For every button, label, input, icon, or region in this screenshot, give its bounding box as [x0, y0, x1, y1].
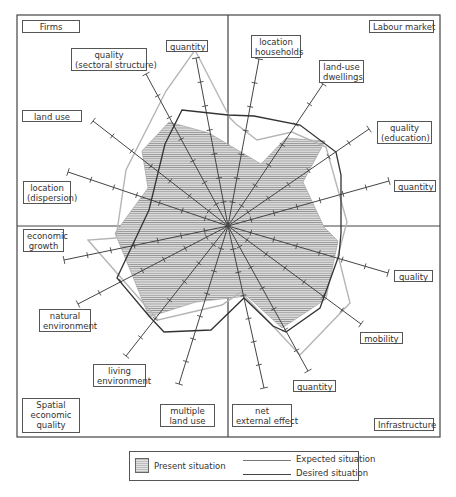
axis-label-3: location (dispersion) [23, 181, 71, 204]
quadrant-label-labour-market: Labour market [369, 20, 434, 33]
legend-desired-label: Desired situation [296, 468, 368, 478]
axis-label-13: living environment [93, 364, 146, 387]
axis-label-1: quality (sectoral structure) [71, 48, 147, 71]
present-situation-swatch [135, 458, 149, 473]
legend: Present situation Expected situation Des… [129, 451, 359, 481]
axis-label-8: quality [394, 270, 433, 282]
axis-label-15: economic growth [23, 229, 64, 252]
expected-situation-line-sample [243, 460, 291, 461]
axis-label-6: quality (education) [377, 121, 432, 144]
desired-situation-line-sample [243, 474, 291, 475]
axis-label-5: land-use dwellings [319, 60, 364, 83]
legend-present-label: Present situation [154, 461, 226, 471]
quadrant-label-infrastructure: Infrastructure [374, 418, 434, 431]
legend-expected-label: Expected situation [296, 454, 375, 464]
quadrant-label-spatial-economic-quality: Spatial economic quality [22, 398, 80, 433]
quadrant-label-firms: Firms [22, 20, 80, 33]
axis-label-10: quantity [293, 380, 336, 392]
axis-label-7: quantity [394, 180, 436, 192]
axis-label-11: net external effect [232, 404, 292, 427]
axis-label-2: land use [22, 110, 82, 122]
axis-label-4: location households [251, 35, 301, 58]
axis-label-12: multiple land use [160, 404, 215, 427]
axis-label-9: mobility [360, 332, 403, 344]
axis-label-14: natural environment [39, 309, 91, 332]
axis-label-0: quantity [166, 40, 208, 52]
